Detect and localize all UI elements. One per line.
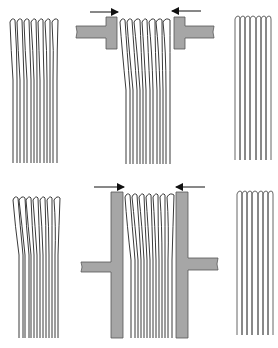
- bottom-right-plate-clamp: [176, 192, 218, 338]
- top-clamped-fiber-bundle: [120, 19, 170, 164]
- bottom-clamped-fiber-bundle: [125, 194, 174, 338]
- fiber-clamping-diagram: [0, 0, 278, 348]
- top-splayed-fiber-bundle: [10, 19, 58, 163]
- top-right-t-clamp: [174, 17, 214, 49]
- bottom-aligned-fiber-bundle: [237, 191, 273, 335]
- diagram-canvas: [0, 0, 278, 348]
- bottom-left-plate-clamp: [81, 192, 123, 338]
- bottom-splayed-fiber-bundle: [13, 197, 60, 338]
- top-aligned-fiber-bundle: [235, 16, 271, 160]
- top-left-t-clamp: [76, 17, 117, 49]
